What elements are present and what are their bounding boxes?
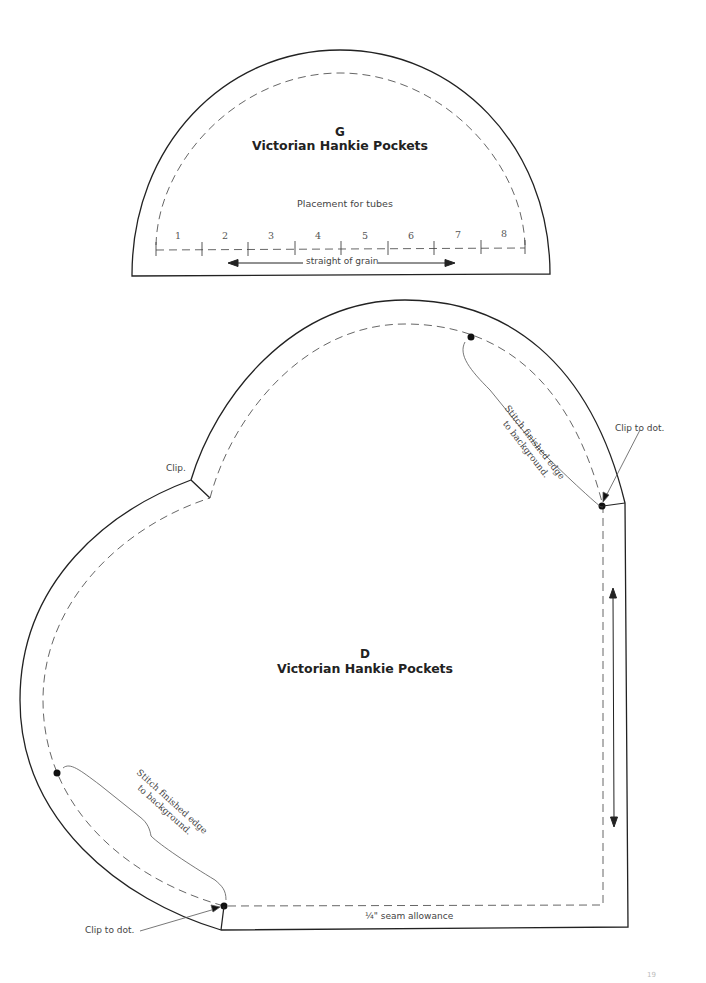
tube-number-6: 6 [408, 230, 414, 241]
tube-number-8: 8 [501, 228, 507, 239]
piece-g-title: Victorian Hankie Pockets [240, 138, 440, 153]
brace-top [463, 342, 603, 507]
tube-number-3: 3 [268, 230, 274, 241]
page-number: 19 [647, 971, 656, 979]
grain-label: straight of grain [306, 256, 376, 266]
piece-g [132, 50, 550, 276]
dot-left [54, 770, 61, 777]
clip-label: Clip. [166, 463, 186, 473]
dot-top [468, 334, 475, 341]
piece-g-letter: G [320, 125, 360, 139]
seam-allowance-label: ¼" seam allowance [365, 911, 453, 921]
piece-d-letter: D [345, 647, 385, 661]
grain-arrow-vertical [610, 588, 618, 827]
piece-d [20, 300, 640, 931]
tube-number-1: 1 [175, 230, 181, 241]
piece-d-seam-line [43, 324, 603, 906]
piece-d-cut-line [20, 300, 628, 930]
piece-d-title: Victorian Hankie Pockets [265, 661, 465, 676]
clip-to-dot-bottom: Clip to dot. [85, 925, 134, 935]
tube-number-5: 5 [362, 230, 368, 241]
placement-label: Placement for tubes [290, 198, 400, 209]
tube-baseline [156, 248, 525, 250]
tube-number-7: 7 [455, 229, 461, 240]
corner-cut-bottom [221, 906, 224, 930]
leader-clip-bottom [140, 905, 220, 931]
clip-to-dot-top: Clip to dot. [615, 423, 664, 433]
tube-number-2: 2 [222, 230, 228, 241]
tube-number-4: 4 [315, 230, 321, 241]
corner-cut-right [603, 503, 625, 506]
piece-g-seam-line [156, 73, 525, 245]
